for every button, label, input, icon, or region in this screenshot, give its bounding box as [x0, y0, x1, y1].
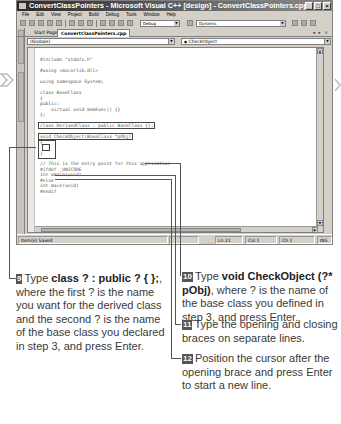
step-9: 9Type class ? : public ? { };, where the… — [16, 272, 172, 353]
member-value: CheckObject — [189, 39, 218, 44]
vertical-scrollbar[interactable]: ▲ ▼ — [316, 48, 323, 232]
navigate-icon[interactable] — [118, 20, 124, 26]
callout-line-11-end — [175, 324, 181, 325]
solution-config-value: Debug — [143, 21, 156, 26]
menu-window[interactable]: Window — [144, 11, 160, 18]
scope-value: (Globals) — [30, 39, 50, 44]
callout-line-12-end — [171, 358, 181, 359]
chevron-down-icon: ▼ — [168, 39, 174, 44]
window-title: ConvertClassPointers - Microsoft Visual … — [29, 1, 308, 10]
highlighted-derived-class-line: class DerivedClass : public BaseClass {}… — [38, 122, 155, 129]
code-line: public: — [40, 101, 59, 106]
status-col: Col 1 — [245, 236, 277, 244]
find-combo[interactable]: Dynamic ▼ — [196, 20, 286, 27]
editor-gutter — [28, 48, 35, 232]
toolbox-icon[interactable] — [310, 20, 316, 26]
callout-line-9-end — [9, 278, 16, 279]
code-line: { — [40, 96, 43, 101]
status-message: Item(s) Saved — [18, 236, 168, 244]
save-all-icon[interactable] — [56, 20, 62, 26]
status-mode: INS — [317, 236, 332, 244]
highlighted-checkobject-line: void CheckObject(BaseClass *pObj) — [38, 133, 133, 140]
maximize-button[interactable]: □ — [314, 2, 322, 10]
save-icon[interactable] — [47, 20, 53, 26]
find-icon[interactable] — [187, 20, 193, 26]
step-12: 12Position the cursor after the opening … — [182, 352, 340, 393]
menu-view[interactable]: View — [51, 11, 61, 18]
callout-line-11 — [175, 175, 176, 324]
menu-build[interactable]: Build — [89, 11, 99, 18]
close-button[interactable]: × — [323, 2, 331, 10]
scroll-up-button[interactable]: ▲ — [317, 48, 323, 54]
status-ch: Ch 1 — [279, 236, 315, 244]
undo-icon[interactable] — [100, 20, 106, 26]
menu-bar: File Edit View Project Build Debug Tools… — [17, 11, 332, 18]
callout-line-10-h — [145, 163, 180, 164]
menu-edit[interactable]: Edit — [36, 11, 44, 18]
solution-explorer-tab[interactable] — [18, 72, 24, 122]
paste-icon[interactable] — [87, 20, 93, 26]
menu-project[interactable]: Project — [68, 11, 82, 18]
minimize-button[interactable]: _ — [305, 2, 313, 10]
step-number-badge: 9 — [16, 274, 22, 284]
solution-config-combo[interactable]: Debug ▼ — [140, 20, 180, 27]
member-combo[interactable]: ◆ CheckObject ▼ — [181, 38, 331, 45]
code-line: using namespace System; — [40, 79, 104, 84]
code-line: class BaseClass — [40, 90, 82, 95]
tab-convertclasspointers-cpp[interactable]: ConvertClassPointers.cpp — [57, 29, 130, 37]
step-number-badge: 10 — [182, 272, 193, 282]
cut-icon[interactable] — [69, 20, 75, 26]
add-item-icon[interactable] — [29, 20, 35, 26]
toolbar-separator — [96, 20, 97, 27]
chevron-down-icon: ▼ — [324, 39, 330, 44]
standard-toolbar: Debug ▼ Dynamic ▼ — [17, 18, 332, 28]
status-line: Ln 21 — [215, 236, 243, 244]
side-toolbox-strip — [17, 28, 25, 235]
chevron-down-icon: ▼ — [280, 21, 285, 26]
find-value: Dynamic — [199, 21, 217, 26]
scope-combo[interactable]: (Globals) ▼ — [27, 38, 175, 45]
callout-line-9 — [9, 147, 10, 278]
solution-explorer-icon[interactable] — [292, 20, 298, 26]
code-line: #ifdef _UNICODE — [40, 167, 82, 172]
toolbar-separator — [65, 20, 66, 27]
step-number-badge: 11 — [182, 320, 192, 330]
app-icon — [19, 3, 26, 9]
scroll-right-button[interactable]: ▶ — [312, 227, 318, 233]
next-page-arrow-icon — [334, 78, 341, 92]
copy-icon[interactable] — [78, 20, 84, 26]
start-icon[interactable] — [127, 20, 133, 26]
horizontal-scroll-thumb[interactable] — [41, 228, 241, 232]
previous-page-arrow-icon — [0, 70, 14, 90]
chevron-down-icon: ▼ — [174, 21, 179, 26]
new-project-icon[interactable] — [20, 20, 26, 26]
menu-file[interactable]: File — [22, 11, 29, 18]
status-blank — [169, 236, 199, 244]
step-11: 11Type the opening and closing braces on… — [182, 318, 340, 345]
horizontal-scrollbar[interactable]: ▶ — [35, 226, 318, 232]
tab-controls[interactable]: ◂ ▸ × — [313, 29, 329, 37]
title-bar[interactable]: ConvertClassPointers - Microsoft Visual … — [17, 1, 332, 11]
code-line: }; — [40, 112, 46, 117]
code-line: virtual void memFunc() {} — [40, 107, 120, 112]
document-tabs: Start Page ConvertClassPointers.cpp ◂ ▸ … — [17, 28, 332, 37]
cursor-position-box — [42, 144, 50, 151]
callout-line-12-h — [55, 179, 171, 180]
tab-start-page[interactable]: Start Page — [31, 29, 60, 37]
properties-icon[interactable] — [301, 20, 307, 26]
code-line: #else — [40, 178, 54, 183]
menu-tools[interactable]: Tools — [126, 11, 137, 18]
menu-debug[interactable]: Debug — [106, 11, 119, 18]
step-number-badge: 12 — [182, 354, 193, 364]
step-10: 10Type void CheckObject (?* pObj), where… — [182, 270, 340, 324]
callout-line-9-h — [9, 147, 36, 148]
open-file-icon[interactable] — [38, 20, 44, 26]
redo-icon[interactable] — [109, 20, 115, 26]
code-line: #endif — [40, 189, 57, 194]
menu-help[interactable]: Help — [167, 11, 176, 18]
callout-line-11-h — [55, 175, 175, 176]
member-icon: ◆ — [184, 39, 187, 44]
code-line: int main(void) — [40, 183, 79, 188]
code-line: #include "stdafx.h" — [40, 57, 93, 62]
navigation-bar: (Globals) ▼ ◆ CheckObject ▼ — [27, 38, 332, 46]
